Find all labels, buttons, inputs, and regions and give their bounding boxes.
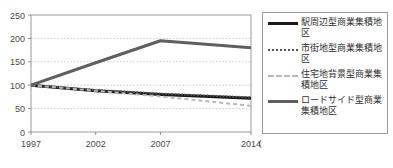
x-axis-tick-label: 1997 — [21, 139, 41, 149]
y-axis-tick-label: 250 — [10, 11, 25, 21]
line-chart-svg: 0501001502002501997200220072014（年） — [0, 0, 262, 168]
y-axis-tick-label: 150 — [10, 57, 25, 67]
legend-item-label: 住宅地背景型商業集積地区 — [301, 69, 384, 91]
chart-plot-area: 0501001502002501997200220072014（年） — [0, 0, 262, 168]
legend-line-swatch-icon — [268, 95, 298, 108]
y-axis-tick-label: 100 — [10, 81, 25, 91]
legend-line-swatch-icon — [268, 69, 298, 82]
chart-legend: 駅周辺型商業集積地区市街地型商業集積地区住宅地背景型商業集積地区ロードサイド型商… — [262, 12, 388, 134]
x-axis-unit-label: （年） — [253, 138, 262, 149]
legend-item[interactable]: 市街地型商業集積地区 — [263, 43, 387, 65]
y-axis-tick-label: 50 — [15, 104, 25, 114]
legend-item[interactable]: 住宅地背景型商業集積地区 — [263, 69, 387, 91]
legend-item-label: 駅周辺型商業集積地区 — [301, 17, 384, 39]
y-axis-tick-label: 200 — [10, 34, 25, 44]
chart-root: 0501001502002501997200220072014（年） 駅周辺型商… — [0, 0, 393, 168]
legend-item[interactable]: 駅周辺型商業集積地区 — [263, 17, 387, 39]
x-axis-tick-label: 2007 — [150, 139, 170, 149]
data-series-line — [31, 41, 251, 85]
legend-item-label: 市街地型商業集積地区 — [301, 43, 384, 65]
y-axis-tick-label: 0 — [20, 128, 25, 138]
legend-line-swatch-icon — [268, 43, 298, 56]
legend-item[interactable]: ロードサイド型商業集積地区 — [263, 95, 387, 117]
x-axis-tick-label: 2002 — [86, 139, 106, 149]
legend-item-label: ロードサイド型商業集積地区 — [301, 95, 384, 117]
legend-line-swatch-icon — [268, 17, 298, 30]
